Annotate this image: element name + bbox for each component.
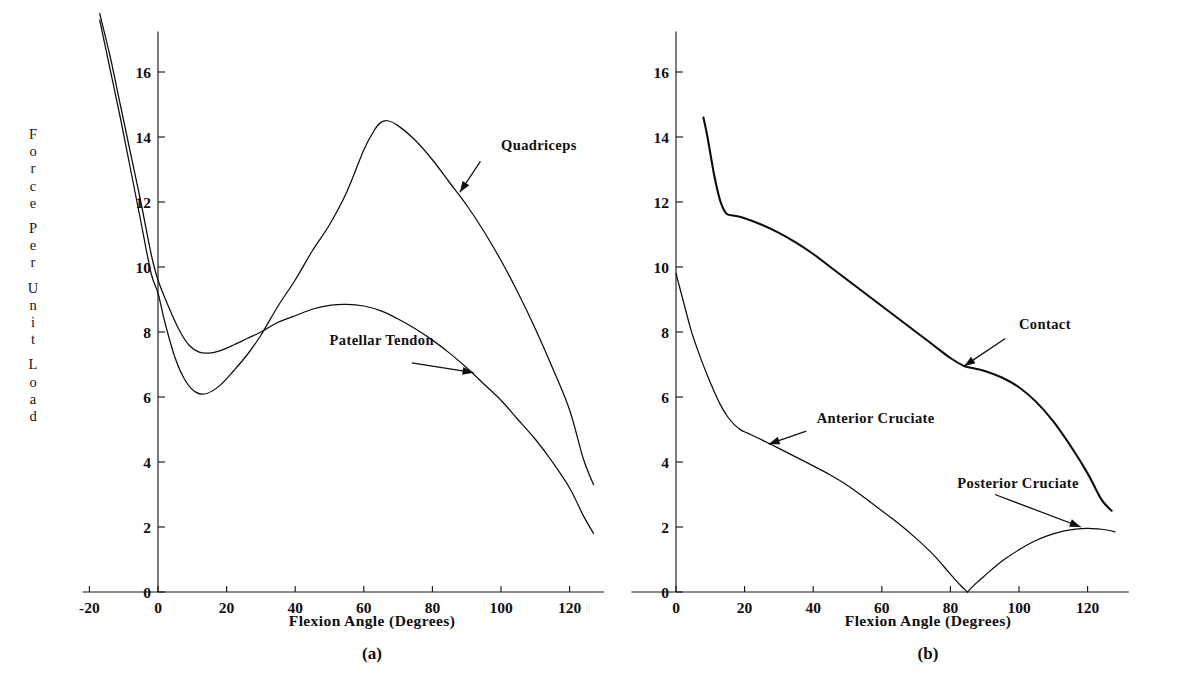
x-tick-label: -20 <box>79 599 100 616</box>
y-tick-label: 2 <box>143 519 151 536</box>
y-tick-label: 16 <box>654 64 670 81</box>
y-axis-label-char: o <box>16 374 50 391</box>
x-tick-label: 0 <box>672 599 680 616</box>
x-tick-label: 0 <box>154 599 162 616</box>
annotation-label-patellar-tendon: Patellar Tendon <box>330 332 434 348</box>
annotation-arrow-quadriceps <box>460 181 469 192</box>
y-axis-label-char: e <box>16 195 50 212</box>
y-tick-label: 0 <box>661 584 669 601</box>
y-tick-label: 0 <box>143 584 151 601</box>
y-axis-label-char: c <box>16 178 50 195</box>
y-tick-label: 6 <box>143 389 151 406</box>
y-axis-label-char: a <box>16 391 50 408</box>
y-axis-label-gap <box>16 272 50 280</box>
y-tick-label: 10 <box>654 259 670 276</box>
annotation-arrow-anterior-cruciate <box>769 437 781 445</box>
chart-a-canvas: -200204060801001200246810121416Quadricep… <box>52 0 632 600</box>
panel-letter-b: (b) <box>758 644 1098 664</box>
y-axis-label-char: r <box>16 160 50 177</box>
annotation-arrow-contact <box>964 357 975 366</box>
y-tick-label: 6 <box>661 389 669 406</box>
y-tick-label: 2 <box>661 519 669 536</box>
series-curve-anterior-cruciate <box>676 274 968 593</box>
series-curve-quadriceps <box>100 20 594 485</box>
annotation-label-quadriceps: Quadriceps <box>501 137 577 153</box>
chart-panel-b: 0204060801001200246810121416ContactAnter… <box>628 0 1203 696</box>
annotation-label-contact: Contact <box>1019 316 1071 332</box>
y-tick-label: 8 <box>661 324 669 341</box>
y-tick-label: 4 <box>143 454 151 471</box>
y-tick-label: 4 <box>661 454 669 471</box>
y-tick-label: 16 <box>136 64 152 81</box>
y-axis-label-char: P <box>16 220 50 237</box>
figure-root: ForcePerUnitLoad -2002040608010012002468… <box>0 0 1203 696</box>
y-axis-label-char: L <box>16 356 50 373</box>
y-axis-label-char: d <box>16 408 50 425</box>
x-tick-label: 20 <box>737 599 753 616</box>
panel-letter-a: (a) <box>202 644 542 664</box>
series-curve-patellar-tendon <box>100 14 594 534</box>
annotation-arrow-posterior-cruciate <box>1069 519 1081 527</box>
y-axis-label-char: t <box>16 331 50 348</box>
x-axis-caption-a: Flexion Angle (Degrees) <box>202 612 542 630</box>
y-axis-label: ForcePerUnitLoad <box>16 126 50 425</box>
x-tick-label: 120 <box>558 599 582 616</box>
y-tick-label: 8 <box>143 324 151 341</box>
y-axis-label-char: e <box>16 237 50 254</box>
y-axis-label-char: F <box>16 126 50 143</box>
y-axis-label-char: U <box>16 280 50 297</box>
x-axis-caption-b: Flexion Angle (Degrees) <box>758 612 1098 630</box>
chart-b-canvas: 0204060801001200246810121416ContactAnter… <box>628 0 1203 600</box>
series-curve-posterior-cruciate <box>968 528 1115 592</box>
annotation-label-anterior-cruciate: Anterior Cruciate <box>817 410 935 426</box>
series-curve-contact <box>703 118 1111 511</box>
y-tick-label: 12 <box>654 194 670 211</box>
annotation-label-posterior-cruciate: Posterior Cruciate <box>957 475 1079 491</box>
y-axis-label-char: n <box>16 297 50 314</box>
y-axis-label-gap <box>16 212 50 220</box>
y-tick-label: 14 <box>654 129 670 146</box>
annotation-leader-posterior-cruciate <box>995 495 1081 528</box>
y-tick-label: 14 <box>136 129 152 146</box>
y-axis-label-char: r <box>16 254 50 271</box>
y-axis-label-gap <box>16 348 50 356</box>
y-axis-label-char: i <box>16 314 50 331</box>
y-axis-label-char: o <box>16 143 50 160</box>
chart-panel-a: -200204060801001200246810121416Quadricep… <box>52 0 632 696</box>
